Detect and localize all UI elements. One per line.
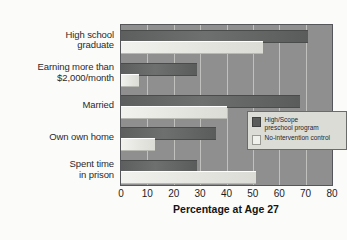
bar <box>121 74 139 87</box>
x-axis-tick-labels: 01020304050607080 <box>120 188 333 202</box>
category-label-line: $2,000/month <box>8 73 114 84</box>
legend-swatch-icon <box>252 135 261 145</box>
x-tick-label: 50 <box>247 188 258 200</box>
legend-item: No-intervention control <box>252 134 341 145</box>
legend-swatch-icon <box>252 117 261 127</box>
category-label-line: in prison <box>8 170 114 181</box>
x-tick-label: 40 <box>221 188 232 200</box>
bar <box>121 41 263 54</box>
category-label: Spent timein prison <box>8 159 114 180</box>
x-tick-label: 30 <box>195 188 206 200</box>
x-tick-label: 80 <box>326 188 337 200</box>
chart-legend: High/Scope preschool programNo-intervent… <box>247 111 347 150</box>
bar <box>121 106 227 119</box>
category-label: High schoolgraduate <box>8 30 114 51</box>
x-tick-label: 20 <box>168 188 179 200</box>
x-tick-label: 60 <box>274 188 285 200</box>
category-label: Earning more than$2,000/month <box>8 62 114 83</box>
bar <box>121 138 155 151</box>
category-label: Own own home <box>8 132 114 143</box>
legend-item: High/Scope preschool program <box>252 116 341 131</box>
category-label-line: Own own home <box>8 132 114 143</box>
category-label-line: graduate <box>8 40 114 51</box>
x-tick-label: 10 <box>142 188 153 200</box>
x-tick-label: 70 <box>300 188 311 200</box>
category-label-line: Married <box>8 100 114 111</box>
x-axis-title: Percentage at Age 27 <box>110 203 342 215</box>
legend-label: No-intervention control <box>265 134 330 142</box>
gridline <box>332 25 333 185</box>
bar <box>121 171 256 184</box>
category-label: Married <box>8 100 114 111</box>
category-axis-labels: High schoolgraduateEarning more than$2,0… <box>8 24 114 186</box>
chart-figure: High schoolgraduateEarning more than$2,0… <box>0 0 347 240</box>
x-tick-label: 0 <box>118 188 124 200</box>
plot-area <box>120 24 333 186</box>
gridline <box>306 25 307 185</box>
legend-label: High/Scope preschool program <box>265 116 319 131</box>
